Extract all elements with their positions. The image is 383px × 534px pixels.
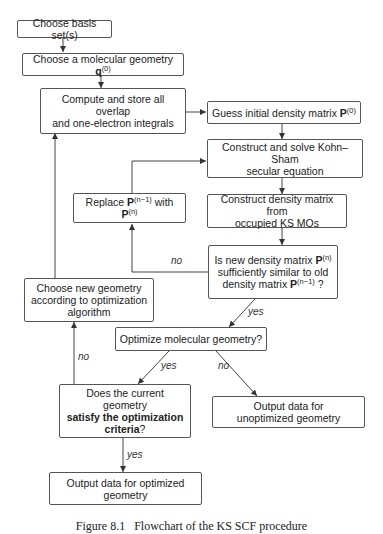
node-text: Guess initial density matrix P(0) xyxy=(212,107,356,119)
node-text-line2: satisfy the optimization xyxy=(67,411,184,423)
node-text-line1: Construct and solve Kohn–Sham xyxy=(211,141,359,165)
node-convergence-check: Is new density matrix P(n) sufficiently … xyxy=(208,245,338,299)
node-text-line1: Choose new geometry xyxy=(36,282,141,294)
edge-label-criteria-yes: yes xyxy=(127,449,143,460)
edge-label-converged-yes: yes xyxy=(248,306,264,317)
edge-label-optimize-yes: yes xyxy=(161,360,177,371)
node-text-line2: occupied KS MOs xyxy=(235,217,319,229)
edge-label-criteria-no: no xyxy=(78,351,89,362)
node-optimize-question: Optimize molecular geometry? xyxy=(115,327,267,351)
node-text-line2: secular equation xyxy=(246,165,323,177)
node-solve-kohn-sham: Construct and solve Kohn–Sham secular eq… xyxy=(207,139,363,178)
node-guess-density: Guess initial density matrix P(0) xyxy=(207,101,361,124)
node-text-line2: according to optimization xyxy=(31,294,147,306)
node-compute-integrals: Compute and store all overlap and one-el… xyxy=(40,88,186,134)
node-output-optimized: Output data for optimized geometry xyxy=(49,472,202,505)
node-text: Replace P(n−1) with P(n) xyxy=(77,196,182,220)
node-choose-geometry: Choose a molecular geometry q(0) xyxy=(22,53,184,76)
node-text-line1: Output data for optimized xyxy=(67,477,185,489)
node-text-line2: and one-electron integrals xyxy=(52,117,173,129)
node-text-line2: unoptimized geometry xyxy=(237,412,340,424)
node-text-line3: criteria? xyxy=(105,423,146,435)
figure-caption: Figure 8.1 Flowchart of the KS SCF proce… xyxy=(0,519,383,534)
node-text-line3: density matrix P(n−1) ? xyxy=(222,278,323,290)
node-construct-density: Construct density matrix from occupied K… xyxy=(207,194,347,228)
node-output-unoptimized: Output data for unoptimized geometry xyxy=(212,396,365,428)
node-text-line1: Does the current geometry xyxy=(63,387,187,411)
node-text-line3: algorithm xyxy=(67,306,110,318)
node-text: Optimize molecular geometry? xyxy=(120,333,262,345)
node-text-line1: Is new density matrix P(n) xyxy=(214,254,331,266)
node-text: Choose basis set(s) xyxy=(21,17,108,41)
node-choose-new-geometry: Choose new geometry according to optimiz… xyxy=(24,278,154,322)
node-text-line1: Output data for xyxy=(253,400,323,412)
edge-label-converged-no: no xyxy=(171,255,182,266)
node-text-line1: Compute and store all overlap xyxy=(44,93,182,117)
node-optimization-criteria: Does the current geometry satisfy the op… xyxy=(59,384,191,438)
node-text-line2: geometry xyxy=(104,489,148,501)
node-replace-density: Replace P(n−1) with P(n) xyxy=(73,193,186,223)
node-text-line1: Construct density matrix from xyxy=(211,193,343,217)
node-choose-basis-set: Choose basis set(s) xyxy=(17,20,112,38)
edge-label-optimize-no: no xyxy=(218,360,229,371)
node-text: Choose a molecular geometry q(0) xyxy=(26,53,180,77)
